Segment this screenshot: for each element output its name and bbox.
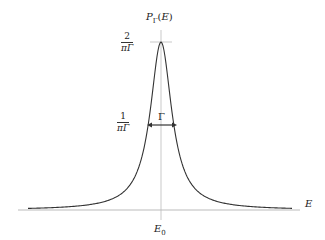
half-max-value-label: 1 πΓ — [117, 112, 129, 133]
center-label: E0 — [154, 224, 166, 237]
width-label: Γ — [158, 112, 165, 122]
peak-value-label: 2 πΓ — [121, 32, 133, 53]
y-axis-label: PΓ(E) — [146, 12, 173, 25]
x-axis-label: E — [305, 199, 312, 209]
